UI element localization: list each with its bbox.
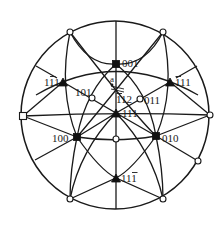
label-111b: 111: [121, 172, 137, 184]
label-001: 001: [122, 57, 139, 69]
label-11b1: 111: [44, 76, 60, 88]
label-011: 011: [144, 94, 160, 106]
label-1b11: 111: [175, 76, 191, 88]
label-111: 111: [122, 107, 138, 119]
label-101: 101: [75, 86, 92, 98]
circle-pole-icon-1b10: [113, 136, 119, 142]
circle-pole-icon: [67, 196, 73, 202]
stereographic-projection: 001 111 111 101 011 111 100 010 111 112 …: [0, 0, 223, 226]
triangle-pole-icon-111: [112, 109, 121, 117]
square-pole-icon-100: [74, 134, 81, 141]
circle-pole-icon: [160, 196, 166, 202]
square-pole-icon: [20, 113, 27, 120]
triangle-pole-icon-1b11: [166, 78, 175, 86]
square-pole-icon-010: [153, 133, 160, 140]
triangle-pole-icon-111b: [112, 174, 121, 182]
square-pole-icon-001: [113, 61, 120, 68]
label-a: a: [110, 74, 114, 84]
circle-pole-icon: [67, 29, 73, 35]
label-1b12: 112: [116, 93, 132, 105]
circle-pole-icon: [207, 112, 213, 118]
triangle-pole-icon-11b1-left: [59, 78, 68, 86]
label-100: 100: [52, 132, 69, 144]
circle-pole-icon: [160, 29, 166, 35]
marker-a: [111, 84, 124, 92]
circle-pole-icon: [195, 158, 201, 164]
circle-pole-icon-011: [137, 96, 143, 102]
label-010: 010: [162, 132, 179, 144]
